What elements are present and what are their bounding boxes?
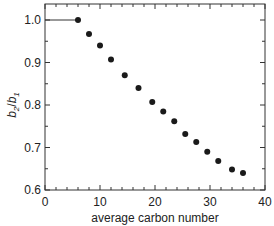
data-point [122, 72, 128, 78]
data-point [204, 149, 210, 155]
svg-text:b2/b1: b2/b1 [5, 92, 21, 118]
y-tick-labels: 0.60.70.80.91.0 [24, 13, 41, 197]
data-point [97, 43, 103, 49]
data-point [75, 17, 81, 23]
scatter-chart: 010203040 0.60.70.80.91.0 average carbon… [0, 0, 274, 226]
data-point [182, 131, 188, 137]
svg-text:0.6: 0.6 [24, 183, 41, 197]
data-point [108, 57, 114, 63]
svg-text:40: 40 [258, 195, 272, 209]
data-point [215, 158, 221, 164]
data-point [240, 170, 246, 176]
data-point [229, 167, 235, 173]
data-point [149, 99, 155, 105]
data-point [160, 108, 166, 114]
plot-frame [45, 4, 265, 190]
svg-text:0.8: 0.8 [24, 98, 41, 112]
data-points [75, 17, 246, 176]
data-point [136, 85, 142, 91]
svg-text:0.7: 0.7 [24, 141, 41, 155]
data-point [86, 31, 92, 37]
y-axis-label: b2/b1 [5, 92, 21, 118]
data-point [193, 139, 199, 145]
svg-text:30: 30 [203, 195, 217, 209]
svg-text:20: 20 [148, 195, 162, 209]
svg-text:0.9: 0.9 [24, 56, 41, 70]
data-point [171, 118, 177, 124]
svg-text:10: 10 [93, 195, 107, 209]
x-tick-labels: 010203040 [42, 195, 272, 209]
svg-text:1.0: 1.0 [24, 13, 41, 27]
x-axis-label: average carbon number [91, 211, 218, 225]
svg-text:0: 0 [42, 195, 49, 209]
axis-ticks [45, 4, 265, 190]
